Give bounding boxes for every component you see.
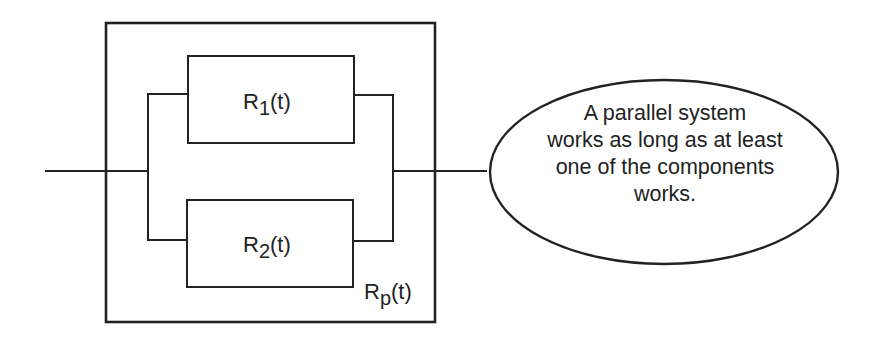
- callout-line: works.: [500, 181, 830, 208]
- component-r1-label: R1(t): [243, 89, 291, 119]
- system-box: [106, 23, 435, 322]
- parallel-system-diagram: R1(t) R2(t) Rp(t) A parallel system work…: [0, 0, 881, 341]
- callout-text: A parallel system works as long as at le…: [500, 100, 830, 208]
- callout-line: one of the components: [500, 154, 830, 181]
- callout-line: A parallel system: [500, 100, 830, 127]
- callout-line: works as long as at least: [500, 127, 830, 154]
- system-label: Rp(t): [364, 279, 412, 309]
- component-r2-label: R2(t): [243, 232, 291, 262]
